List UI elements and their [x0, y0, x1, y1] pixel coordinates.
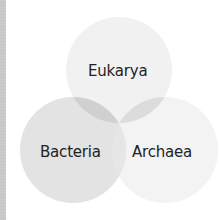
label-archaea: Archaea [132, 145, 192, 160]
venn-diagram: Eukarya Bacteria Archaea [0, 0, 219, 220]
venn-circles [0, 0, 219, 220]
label-bacteria: Bacteria [40, 145, 101, 160]
label-eukarya: Eukarya [88, 64, 147, 79]
